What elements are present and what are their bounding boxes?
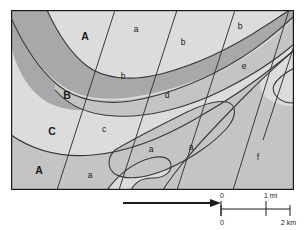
- facies-label-b-upper: b: [181, 37, 186, 47]
- facies-label-a-bottom: a: [88, 170, 93, 180]
- unit-label-a-lower: A: [35, 164, 43, 176]
- scale-bar-graphic: [221, 201, 290, 216]
- direction-arrow: [122, 195, 222, 211]
- map-regions: [11, 10, 294, 190]
- scale-bar: 0 1 mi 0 2 km: [218, 190, 298, 228]
- unit-label-b: B: [63, 89, 71, 101]
- scale-miles-start-label: 0: [220, 192, 224, 199]
- unit-label-c: C: [48, 125, 56, 137]
- facies-label-d: d: [165, 90, 170, 100]
- facies-label-a-mid-right: a: [189, 142, 194, 152]
- scale-km-start-label: 0: [220, 219, 224, 226]
- map-canvas: A B C A a b b b e d c a a f a: [11, 10, 294, 190]
- figure-root: A B C A a b b b e d c a a f a: [0, 0, 305, 230]
- map-panel: A B C A a b b b e d c a a f a: [11, 10, 294, 190]
- facies-label-e: e: [242, 61, 247, 71]
- facies-label-b-topright: b: [238, 21, 243, 31]
- annotation-row: 0 1 mi 0 2 km: [0, 190, 305, 230]
- unit-label-a-upper: A: [81, 30, 89, 42]
- facies-label-a-top: a: [134, 24, 139, 34]
- facies-label-a-mid-left: a: [149, 144, 154, 154]
- scale-miles-end-label: 1 mi: [264, 192, 278, 199]
- facies-label-b-left: b: [121, 71, 126, 81]
- scale-km-end-label: 2 km: [281, 219, 296, 226]
